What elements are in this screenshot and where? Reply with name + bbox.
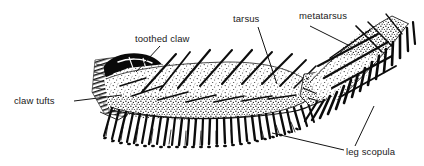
label-tarsus: tarsus (233, 13, 260, 24)
label-toothed-claw: toothed claw (135, 33, 190, 44)
leg-illustration: claw tufts toothed claw tarsus metatarsu… (0, 0, 424, 166)
label-claw-tufts: claw tufts (14, 95, 55, 106)
label-metatarsus: metatarsus (299, 10, 347, 21)
label-leg-scopula: leg scopula (346, 146, 396, 157)
spider-leg-figure: claw tufts toothed claw tarsus metatarsu… (0, 0, 424, 166)
